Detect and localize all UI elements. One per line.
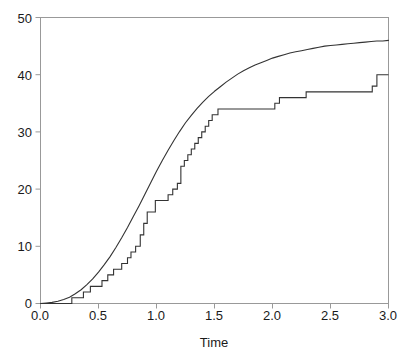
x-tick-label: 1.0	[147, 308, 165, 323]
chart-background	[0, 0, 411, 359]
y-tick-label: 50	[18, 11, 32, 26]
x-tick-label: 2.5	[321, 308, 339, 323]
x-tick-label: 2.0	[263, 308, 281, 323]
line-chart: 0.0 0.5 1.0 1.5 2.0 2.5 3.0 0 10 20 30 4…	[0, 0, 411, 359]
y-tick-label: 10	[18, 239, 32, 254]
x-tick-label: 0.0	[31, 308, 49, 323]
x-tick-label: 0.5	[89, 308, 107, 323]
y-tick-label: 20	[18, 182, 32, 197]
x-axis-title: Time	[200, 335, 228, 350]
x-tick-label: 1.5	[205, 308, 223, 323]
y-tick-label: 30	[18, 125, 32, 140]
y-tick-label: 0	[25, 296, 32, 311]
chart-page: 0.0 0.5 1.0 1.5 2.0 2.5 3.0 0 10 20 30 4…	[0, 0, 411, 359]
y-tick-label: 40	[18, 68, 32, 83]
x-tick-label: 3.0	[379, 308, 397, 323]
